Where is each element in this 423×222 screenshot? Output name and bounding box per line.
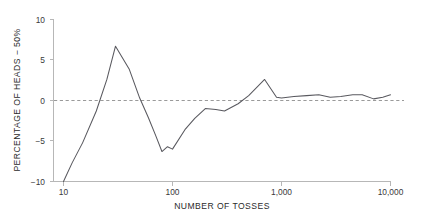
x-tick-label-10000: 10,000: [378, 187, 404, 197]
x-tick-label-1000: 1,000: [271, 187, 292, 197]
y-tick-label-0: 0: [40, 96, 45, 106]
y-tick-label-10: 10: [36, 15, 46, 25]
y-tick-label-minus-10: −10: [31, 177, 46, 187]
chart-figure: 10 5 0 −5 −10 10 100 1,000 10,000 NUMBER…: [0, 0, 423, 222]
x-tick-label-10: 10: [59, 187, 69, 197]
y-tick-label-5: 5: [40, 55, 45, 65]
y-tick-label-minus-5: −5: [35, 136, 45, 146]
x-axis-title: NUMBER OF TOSSES: [174, 201, 270, 211]
coin-toss-line-chart: 10 5 0 −5 −10 10 100 1,000 10,000 NUMBER…: [0, 0, 423, 222]
y-axis-title: PERCENTAGE OF HEADS − 50%: [12, 28, 22, 171]
x-tick-label-100: 100: [166, 187, 180, 197]
